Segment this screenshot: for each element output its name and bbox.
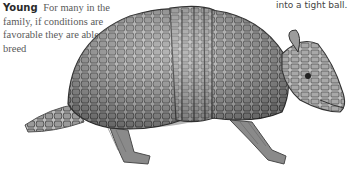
eye <box>305 73 311 79</box>
head <box>282 30 345 112</box>
armadillo-illustration <box>0 0 351 172</box>
